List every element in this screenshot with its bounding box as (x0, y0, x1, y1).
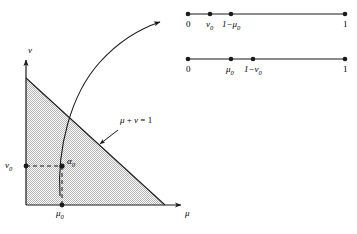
tick-dot (229, 57, 234, 62)
lower-tick-label-1: 1 (343, 65, 348, 74)
x-tick-label-sub: 0 (61, 213, 64, 220)
upper-tick-label-0: 0 (186, 20, 191, 29)
upper-tick-0-base: 0 (186, 19, 191, 29)
point-mu0 (60, 203, 65, 208)
upper-tick-label-one-minus-mu0: 1−μ0 (222, 20, 240, 31)
lower-tick-label-0: 0 (186, 65, 191, 74)
tick-dot (343, 57, 348, 62)
y-tick-label-sub: 0 (9, 165, 12, 172)
upper-tick-label-nu0: ν0 (206, 20, 213, 31)
tick-dot (186, 12, 191, 17)
upper-tick-2-base: 1−μ (222, 19, 237, 29)
lower-tick-0-base: 0 (186, 64, 191, 74)
lower-number-line-vector (186, 57, 348, 62)
constraint-equation-label: μ + ν = 1 (120, 116, 152, 125)
tick-dot (343, 12, 348, 17)
tick-dot (251, 57, 256, 62)
lower-tick-2-sub: 0 (259, 69, 262, 76)
tick-dot (229, 12, 234, 17)
point-label-alpha0: α0 (67, 157, 75, 168)
constraint-equals-one: = 1 (138, 115, 152, 125)
admissible-region (26, 78, 165, 205)
lower-tick-2-base: 1−ν (244, 64, 259, 74)
constraint-label-pointer (100, 130, 118, 144)
lower-tick-label-one-minus-nu0: 1−ν0 (244, 65, 262, 76)
y-tick-label-nu0: ν0 (5, 161, 12, 172)
point-nu0 (24, 164, 29, 169)
y-axis-label: ν (28, 46, 32, 55)
lower-tick-label-mu0: μ0 (226, 65, 234, 76)
constraint-plus: + (125, 115, 135, 125)
x-tick-label-mu0: μ0 (56, 209, 64, 220)
upper-tick-label-1: 1 (343, 20, 348, 29)
lower-tick-3-base: 1 (343, 64, 348, 74)
lower-tick-1-sub: 0 (231, 69, 234, 76)
upper-tick-2-sub: 0 (237, 24, 240, 31)
tick-dot (186, 57, 191, 62)
figure-vector-layer (0, 0, 357, 234)
upper-tick-1-sub: 0 (210, 24, 213, 31)
figure-container: ν μ ν0 μ0 α0 μ + ν = 1 0 ν0 1−μ0 1 0 μ0 … (0, 0, 357, 234)
upper-number-line-vector (186, 12, 348, 17)
x-axis-label: μ (185, 209, 190, 218)
point-label-sub: 0 (72, 161, 75, 168)
tick-dot (208, 12, 213, 17)
upper-tick-3-base: 1 (343, 19, 348, 29)
